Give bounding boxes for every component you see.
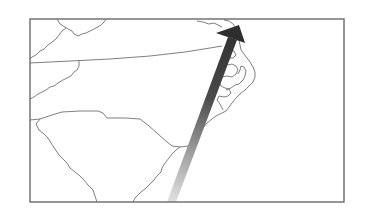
albemarle-sound-shore — [226, 66, 246, 90]
storm-track-arrow — [167, 25, 245, 202]
nc-tn-border — [30, 61, 79, 99]
virginia-nc-border — [30, 46, 222, 63]
south-carolina-outline — [30, 111, 192, 147]
map-frame — [30, 19, 344, 202]
map — [0, 0, 371, 217]
ridge-boundary-west — [30, 28, 66, 59]
chesapeake-shore — [197, 21, 222, 27]
ridge-boundary-north — [57, 19, 106, 36]
track-shaft — [167, 37, 237, 202]
sc-ga-border — [36, 119, 97, 202]
